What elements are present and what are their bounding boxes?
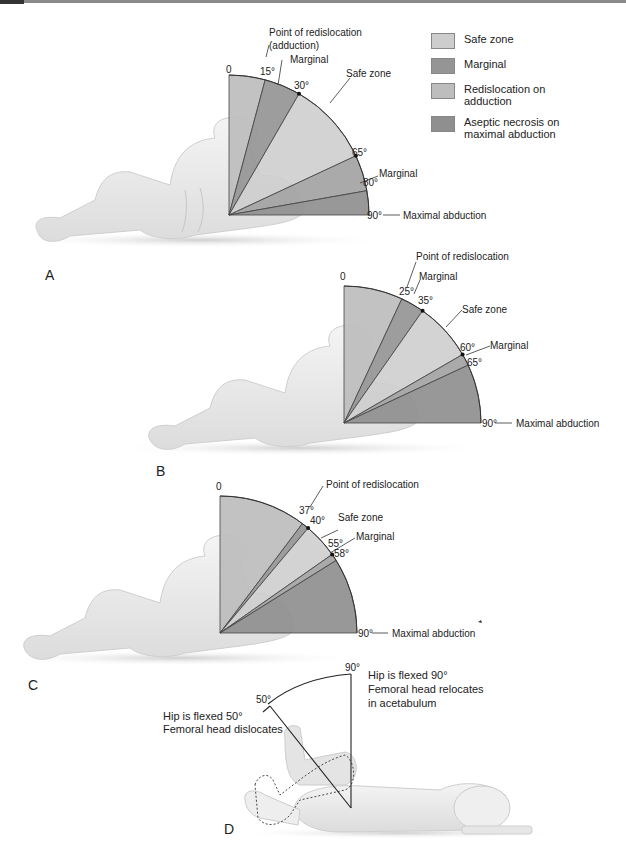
stray-mark <box>478 620 482 623</box>
legend-label: Safe zone <box>464 33 514 45</box>
callout-redislocation-b: Point of redislocation <box>416 251 509 262</box>
angle-0-label-a: 0 <box>226 64 232 75</box>
angle-65-label-a: 65° <box>352 147 367 158</box>
sector-fan-a <box>229 75 369 215</box>
angle-35-label-b: 35° <box>418 295 433 306</box>
callout-maximal-c: Maximal abduction <box>392 628 475 639</box>
callout-marginal2-b: Marginal <box>490 340 528 351</box>
callout-redislocation-sub-a: (adduction) <box>269 40 319 51</box>
legend-label: Aseptic necrosis on maximal abduction <box>464 116 579 140</box>
angle-0-label-c: 0 <box>216 481 222 492</box>
callout-safe-c: Safe zone <box>338 512 383 523</box>
legend-item-redislocation: Redislocation on adduction <box>431 83 621 107</box>
femoral-head-relocates-text: Femoral head relocates <box>368 683 484 695</box>
panel-label-d: D <box>224 821 234 837</box>
panel-label-b: B <box>156 463 165 479</box>
callout-marginal1-a: Marginal <box>290 54 328 65</box>
callout-marginal-c: Marginal <box>356 531 394 542</box>
angle-58-label-c: 58° <box>334 548 349 559</box>
legend-item-safe-zone: Safe zone <box>431 33 621 49</box>
angle-50-label-d: 50° <box>256 694 271 705</box>
panel-b: 0 25° 35° 60° 65° 90° Point of redisloca… <box>110 251 599 479</box>
angle-25-label-b: 25° <box>399 286 414 297</box>
femoral-head-dislocates-text: Femoral head dislocates <box>163 723 283 735</box>
hip-flexed-50-text: Hip is flexed 50° <box>163 710 243 722</box>
angle-90-label-d: 90° <box>345 662 360 673</box>
legend-item-aseptic-necrosis: Aseptic necrosis on maximal abduction <box>431 116 621 140</box>
angle-60-label-b: 60° <box>460 342 475 353</box>
sector-fan-c <box>220 496 357 633</box>
angle-0-label-b: 0 <box>340 271 346 282</box>
angle-90-label-c: 90° <box>358 628 373 639</box>
legend: Safe zone Marginal Redislocation on addu… <box>431 33 621 149</box>
infant-figure-d <box>230 726 570 839</box>
legend-swatch-aseptic-necrosis <box>431 116 455 132</box>
callout-maximal-b: Maximal abduction <box>516 418 599 429</box>
angle-90-label-b: 90° <box>482 418 497 429</box>
callout-marginal1-b: Marginal <box>419 271 457 282</box>
callout-redislocation-c: Point of redislocation <box>326 479 419 490</box>
angle-80-label-a: 80° <box>363 177 378 188</box>
angle-30-label-a: 30° <box>294 80 309 91</box>
sector-fan-b <box>344 286 481 423</box>
hip-flexed-90-text: Hip is flexed 90° <box>368 669 448 681</box>
legend-label: Marginal <box>464 58 506 70</box>
callout-maximal-a: Maximal abduction <box>403 210 486 221</box>
angle-40-label-c: 40° <box>310 515 325 526</box>
panel-c: 0 37° 40° 55° 58° 90° Point of redisloca… <box>0 479 482 693</box>
angle-90-label-a: 90° <box>367 210 382 221</box>
panel-label-c: C <box>28 677 38 693</box>
callout-marginal2-a: Marginal <box>379 168 417 179</box>
angle-65-label-b: 65° <box>467 357 482 368</box>
legend-label: Redislocation on adduction <box>464 83 559 107</box>
callout-safe-a: Safe zone <box>346 68 391 79</box>
callout-safe-b: Safe zone <box>462 304 507 315</box>
panel-d: 50° 90° Hip is flexed 50° Femoral head d… <box>163 662 570 839</box>
in-acetabulum-text: in acetabulum <box>368 697 437 709</box>
panel-a: 0 15° 30° 65° 80° 90° Point of redisloca… <box>10 27 486 283</box>
angle-15-label-a: 15° <box>260 66 275 77</box>
panel-label-a: A <box>45 267 55 283</box>
legend-item-marginal: Marginal <box>431 58 621 74</box>
callout-redislocation-a: Point of redislocation <box>269 27 362 38</box>
legend-swatch-safe-zone <box>431 33 455 49</box>
legend-swatch-marginal <box>431 58 455 74</box>
legend-swatch-redislocation <box>431 83 455 99</box>
